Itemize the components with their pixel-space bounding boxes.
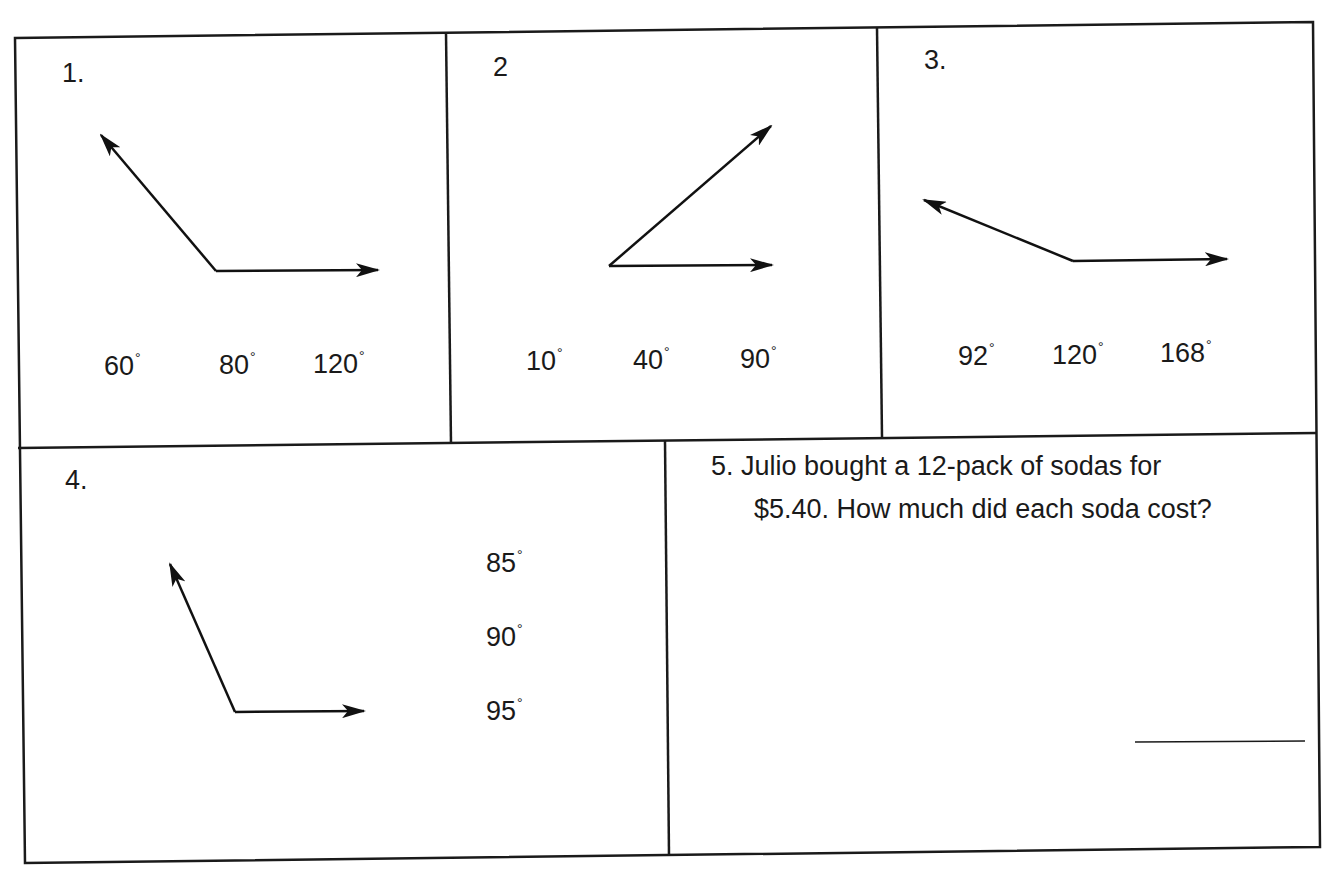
problem-1-choice-c[interactable]: 120° xyxy=(313,351,365,378)
ray-arrow-icon xyxy=(170,564,235,712)
choice-value: 85 xyxy=(486,548,516,578)
choice-value: 92 xyxy=(958,341,988,371)
choice-value: 120 xyxy=(313,349,358,379)
degree-symbol: ° xyxy=(135,350,141,366)
problem-5-number: 5. xyxy=(711,451,734,481)
degree-symbol: ° xyxy=(1098,339,1104,355)
problem-1-choice-b[interactable]: 80° xyxy=(219,352,256,379)
problem-5-line-1: 5. Julio bought a 12-pack of sodas for xyxy=(711,445,1212,488)
choice-value: 10 xyxy=(526,346,556,376)
degree-symbol: ° xyxy=(250,349,256,365)
problem-2-choice-a[interactable]: 10° xyxy=(526,348,563,375)
problem-2-choice-c[interactable]: 90° xyxy=(740,346,777,373)
col-divider-1-2 xyxy=(446,33,451,443)
problem-4-choice-b[interactable]: 90° xyxy=(486,624,523,651)
problem-3-choice-c[interactable]: 168° xyxy=(1160,340,1212,367)
problem-5-question-part-1: Julio bought a 12-pack of sodas for xyxy=(741,451,1161,481)
choice-value: 90 xyxy=(486,622,516,652)
ray-arrow-icon xyxy=(609,126,771,266)
degree-symbol: ° xyxy=(557,345,563,361)
problem-1-number: 1. xyxy=(62,60,85,87)
problem-5-line-2: $5.40. How much did each soda cost? xyxy=(711,488,1212,531)
problem-4-choice-c[interactable]: 95° xyxy=(486,698,523,725)
degree-symbol: ° xyxy=(517,621,523,637)
ray-arrow-icon xyxy=(1073,259,1227,261)
ray-arrow-icon xyxy=(609,265,772,266)
problem-2-number: 2 xyxy=(493,54,508,81)
answer-line xyxy=(1135,741,1305,742)
ray-arrow-icon xyxy=(101,135,216,271)
choice-value: 40 xyxy=(633,345,663,375)
degree-symbol: ° xyxy=(359,348,365,364)
degree-symbol: ° xyxy=(664,344,670,360)
problem-3-number: 3. xyxy=(924,47,947,74)
problem-5-answer-field[interactable] xyxy=(1135,712,1305,740)
degree-symbol: ° xyxy=(1206,337,1212,353)
problem-3-choice-a[interactable]: 92° xyxy=(958,343,995,370)
choice-value: 80 xyxy=(219,350,249,380)
problem-4-number: 4. xyxy=(65,467,88,494)
col-divider-2-3 xyxy=(877,28,882,437)
angle-diagram-1 xyxy=(101,135,378,271)
ray-arrow-icon xyxy=(235,711,364,712)
ray-arrow-icon xyxy=(924,200,1073,261)
ray-arrow-icon xyxy=(216,270,378,271)
choice-value: 168 xyxy=(1160,338,1205,368)
choice-value: 60 xyxy=(104,351,134,381)
problem-1-choice-a[interactable]: 60° xyxy=(104,353,141,380)
degree-symbol: ° xyxy=(517,547,523,563)
problem-5-text: 5. Julio bought a 12-pack of sodas for $… xyxy=(711,445,1212,531)
choice-value: 95 xyxy=(486,696,516,726)
angle-diagram-3 xyxy=(924,200,1227,261)
angle-diagram-4 xyxy=(170,564,364,712)
degree-symbol: ° xyxy=(989,340,995,356)
problem-3-choice-b[interactable]: 120° xyxy=(1052,342,1104,369)
degree-symbol: ° xyxy=(771,343,777,359)
degree-symbol: ° xyxy=(517,695,523,711)
choice-value: 120 xyxy=(1052,340,1097,370)
problem-2-choice-b[interactable]: 40° xyxy=(633,347,670,374)
angle-diagram-2 xyxy=(609,126,772,266)
col-divider-4-5 xyxy=(665,441,669,855)
problem-4-choice-a[interactable]: 85° xyxy=(486,550,523,577)
choice-value: 90 xyxy=(740,344,770,374)
